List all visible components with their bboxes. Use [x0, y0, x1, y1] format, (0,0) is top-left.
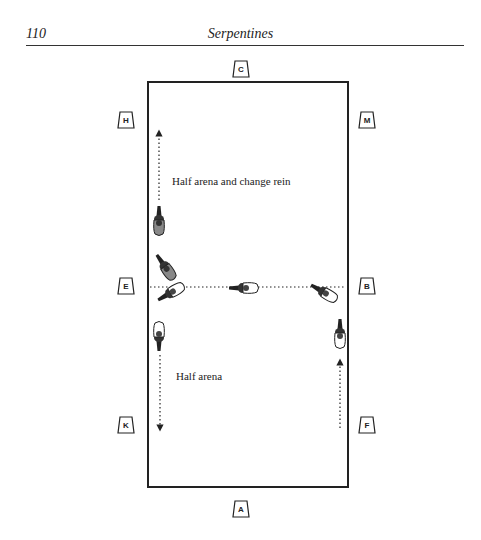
annotation-lower: Half arena [176, 370, 222, 382]
marker-f-letter: F [365, 421, 370, 430]
marker-m-letter: M [364, 116, 371, 125]
arena-diagram: C A H E K M B F [0, 0, 481, 540]
marker-b-letter: B [364, 282, 370, 291]
marker-h-letter: H [123, 116, 129, 125]
marker-c-letter: C [238, 65, 244, 74]
horse-icon [155, 281, 186, 305]
annotation-upper: Half arena and change rein [172, 175, 291, 187]
marker-e-letter: E [123, 282, 129, 291]
horse-icon [229, 283, 259, 294]
horse-icon [154, 206, 165, 236]
horse-icon [335, 319, 346, 349]
horse-icon [152, 252, 178, 282]
marker-a-letter: A [238, 505, 244, 514]
horse-icon [308, 280, 339, 304]
horse-icon [154, 322, 165, 352]
marker-k-letter: K [123, 421, 129, 430]
